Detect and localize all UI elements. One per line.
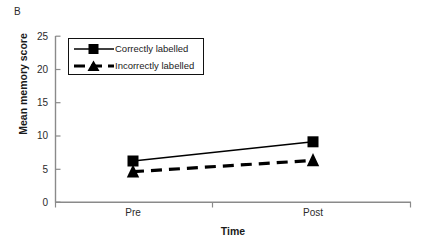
legend-key-correctly-labelled [73,41,115,57]
square-marker-icon [308,136,319,147]
square-marker-icon [89,44,99,54]
legend-label: Correctly labelled [115,44,188,54]
triangle-marker-icon [307,153,319,166]
legend-key-incorrectly-labelled [73,58,115,74]
series-line-correctly-labelled [133,142,313,161]
figure-panel-b: B Mean memory score Time 25 20 15 10 5 0… [0,0,426,247]
x-axis-ticks [56,202,411,207]
legend-label: Incorrectly labelled [115,61,194,71]
legend-entry-correctly-labelled: Correctly labelled [69,40,203,58]
series-correctly-labelled [128,136,319,166]
legend: Correctly labelled Incorrectly labelled [68,38,204,75]
series-line-incorrectly-labelled [133,160,313,171]
legend-entry-incorrectly-labelled: Incorrectly labelled [69,57,203,75]
y-axis-ticks [56,36,61,202]
plot-area [0,0,426,247]
series-incorrectly-labelled [127,153,319,178]
